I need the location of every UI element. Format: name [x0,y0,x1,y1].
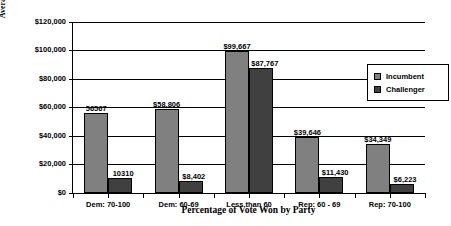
x-tick-mark [319,193,320,198]
legend-swatch-incumbent-icon [374,73,381,80]
y-tick-label: $20,000 [0,160,66,168]
bar-value-label: $6,223 [394,175,417,184]
bar-challenger[interactable]: $8,402 [179,181,203,193]
bar-incumbent[interactable]: $99,667 [225,51,249,193]
bar-value-label: $99,667 [223,42,250,51]
bar-value-label: 56567 [86,104,107,113]
bar-value-label: $87,767 [251,59,278,68]
y-tick-label: $80,000 [0,75,66,83]
bar-groups: 5656710310Dem: 70-100$58,806$8,402Dem: 6… [73,22,425,193]
bar-incumbent[interactable]: 56567 [84,113,108,193]
y-tick-label: $60,000 [0,103,66,111]
legend-label-incumbent: Incumbent [386,72,424,81]
bar-group: 5656710310Dem: 70-100 [73,22,143,193]
x-tick-mark [390,193,391,198]
x-tick-mark [355,193,356,198]
legend-item-challenger: Challenger [374,85,442,94]
legend-item-incumbent: Incumbent [374,72,442,81]
bar-incumbent[interactable]: $39,646 [295,137,319,193]
bar-value-label: $8,402 [182,172,205,181]
x-tick-mark [73,193,74,198]
x-tick-mark [214,193,215,198]
x-axis-title: Percentage of Vote Won by Party [72,205,425,215]
chart-legend: Incumbent Challenger [367,64,449,101]
x-tick-mark [425,193,426,198]
bar-value-label: 10310 [113,169,134,178]
plot-area: $0$20,000$40,000$60,000$80,000$100,000$1… [72,22,425,194]
y-tick-label: $100,000 [0,46,66,54]
bar-challenger[interactable]: $11,430 [319,177,343,193]
bar-incumbent[interactable]: $34,349 [366,144,390,193]
bar-value-label: $34,349 [364,135,391,144]
bar-challenger[interactable]: $6,223 [390,184,414,193]
bar-incumbent[interactable]: $58,806 [155,109,179,193]
legend-swatch-challenger-icon [374,86,381,93]
bar-group: $99,667$87,767Less than 60 [214,22,284,193]
x-tick-mark [179,193,180,198]
y-tick-label: $120,000 [0,18,66,26]
y-tick-label: $0 [0,189,66,197]
x-tick-mark [108,193,109,198]
x-tick-mark [284,193,285,198]
y-tick-label: $40,000 [0,132,66,140]
bar-value-label: $58,806 [153,100,180,109]
legend-label-challenger: Challenger [386,85,425,94]
x-tick-mark [143,193,144,198]
bar-challenger[interactable]: $87,767 [249,68,273,193]
x-tick-mark [249,193,250,198]
bar-group: $39,646$11,430Rep: 60 - 69 [284,22,354,193]
bar-chart: Average Expenditure $0$20,000$40,000$60,… [0,0,451,226]
bar-group: $34,349$6,223Rep: 70-100 [355,22,425,193]
bar-group: $58,806$8,402Dem: 60-69 [143,22,213,193]
bar-challenger[interactable]: 10310 [108,178,132,193]
bar-value-label: $39,646 [294,128,321,137]
bar-value-label: $11,430 [322,168,349,177]
